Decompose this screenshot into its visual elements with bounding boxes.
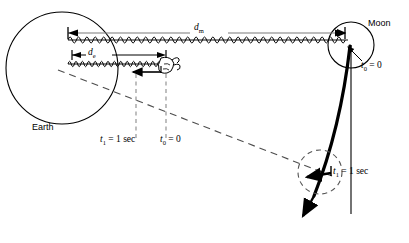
moon-distance-label: dm xyxy=(194,22,204,34)
t1-trajectory-annotation: t1 = 1 sec xyxy=(333,166,368,178)
sight-line-dashed xyxy=(58,70,332,176)
figure-canvas: Earth Moon dm de t0 = 0 t1 = 1 sec t1 = … xyxy=(0,0,409,243)
hand-icon xyxy=(158,57,180,73)
moon-distance-dimension xyxy=(68,27,345,39)
de-subscript: e xyxy=(93,52,96,59)
earth-label: Earth xyxy=(32,122,54,132)
t1-bottom-value: 1 sec xyxy=(116,134,135,144)
upper-spring-relaxed xyxy=(68,37,348,43)
t0-moon-value: 0 xyxy=(377,60,382,70)
earth-distance-label: de xyxy=(88,47,96,59)
t0-bottom-value: 0 xyxy=(176,134,181,144)
diagram-svg xyxy=(0,0,409,243)
moon-label: Moon xyxy=(368,18,391,28)
earth-distance-dimension xyxy=(72,50,166,60)
t0-bottom-annotation: t0 = 0 xyxy=(160,134,181,146)
t1-traj-value: 1 sec xyxy=(349,166,368,176)
t0-moon-annotation: t0 = 0 xyxy=(361,60,382,72)
trajectory-curve-tail xyxy=(303,196,314,216)
earth-circle xyxy=(6,12,118,124)
dm-subscript: m xyxy=(199,27,204,34)
lower-spring-compressed xyxy=(68,61,164,66)
t1-bottom-annotation: t1 = 1 sec xyxy=(100,134,135,146)
